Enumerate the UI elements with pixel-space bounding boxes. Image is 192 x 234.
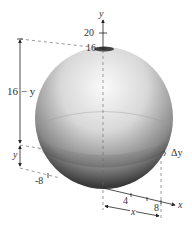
y-axis-label: y (99, 9, 103, 19)
sphere (35, 47, 173, 190)
y-tick-16: 16 (86, 43, 96, 53)
dim-delta-y: Δy (171, 148, 182, 158)
x-axis-label: x (178, 200, 182, 210)
dim-x: x (130, 207, 136, 217)
dim-16-minus-y: 16 − y (7, 86, 35, 96)
x-tick-4: 4 (123, 196, 128, 206)
y-tick-20: 20 (84, 28, 94, 38)
diagram-canvas (0, 0, 192, 234)
x-tick-8: 8 (154, 203, 159, 213)
x-tick-neg8: -8 (35, 176, 43, 186)
sphere-diagram: y 20 16 16 − y y Δy -8 4 8 x x (0, 0, 192, 234)
dim-y: y (13, 150, 17, 160)
